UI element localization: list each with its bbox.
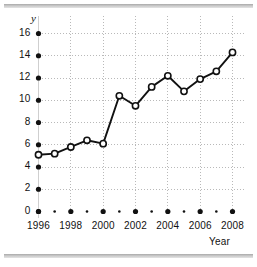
y-tick-label: 10 (9, 93, 31, 104)
x-axis-tick-marks (36, 209, 235, 214)
y-tick-label: 4 (9, 160, 31, 171)
y-tick-label: 6 (9, 138, 31, 149)
y-tick-label: 14 (9, 49, 31, 60)
y-tick-label: 2 (9, 182, 31, 193)
y-tick-label: 0 (9, 205, 31, 216)
y-tick-label: 16 (9, 27, 31, 38)
horizontal-gridlines (39, 34, 245, 190)
chart-page: y Year 0246810121416 1996199820002002200… (0, 0, 257, 267)
y-tick-label: 12 (9, 71, 31, 82)
x-tick-label: 2008 (213, 220, 253, 231)
y-tick-label: 8 (9, 116, 31, 127)
vertical-gridlines (39, 16, 233, 212)
